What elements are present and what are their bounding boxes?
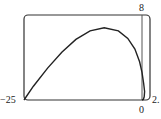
- x-max-label: 2.: [152, 95, 160, 105]
- curve: [24, 28, 145, 100]
- viewing-window-frame: [24, 15, 150, 100]
- x-min-label: −25: [0, 95, 16, 105]
- plot-area: [0, 0, 161, 119]
- y-max-label: 8: [139, 3, 144, 13]
- x-zero-label: 0: [139, 105, 144, 115]
